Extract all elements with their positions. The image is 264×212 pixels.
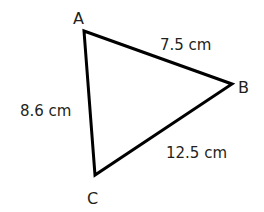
triangle-diagram: A B C 7.5 cm 8.6 cm 12.5 cm bbox=[0, 0, 264, 212]
vertex-label-a: A bbox=[73, 9, 84, 28]
side-label-ac: 8.6 cm bbox=[20, 102, 71, 120]
side-label-ab: 7.5 cm bbox=[160, 36, 211, 54]
vertex-label-c: C bbox=[87, 189, 98, 208]
vertex-label-b: B bbox=[238, 78, 249, 97]
side-label-bc: 12.5 cm bbox=[166, 144, 227, 162]
